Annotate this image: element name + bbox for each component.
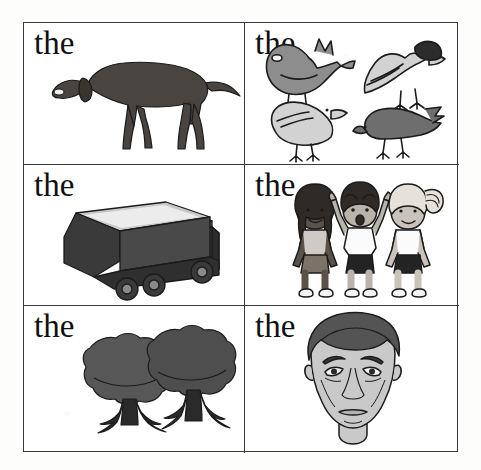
cell-word-label: the	[34, 306, 74, 347]
worksheet-cell-trees[interactable]: the	[24, 306, 245, 453]
cell-word-label: the	[34, 165, 74, 206]
worksheet-cell-birds[interactable]: the	[245, 23, 459, 165]
worksheet-cell-dog[interactable]: the	[24, 23, 245, 165]
cell-word-label: the	[255, 23, 295, 64]
cell-word-label: the	[255, 165, 295, 206]
worksheet-cell-children[interactable]: the	[245, 165, 459, 306]
cell-word-label: the	[255, 306, 295, 347]
cell-word-label: the	[34, 23, 74, 64]
worksheet-cell-face[interactable]: the	[245, 306, 459, 453]
worksheet-page: the	[0, 0, 481, 470]
picture-word-grid: the	[23, 22, 458, 452]
worksheet-cell-truck[interactable]: the	[24, 165, 245, 306]
